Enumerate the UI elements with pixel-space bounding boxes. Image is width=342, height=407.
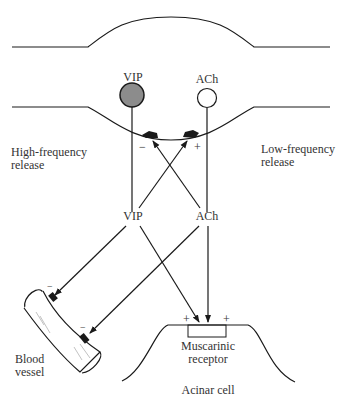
muscarinic-receptor-label-2: receptor	[168, 353, 248, 366]
muscarinic-receptor-box	[188, 325, 226, 337]
ach-neuron-soma	[198, 89, 217, 108]
upper-membrane	[12, 17, 330, 47]
ach-transmitter-label: ACh	[192, 210, 222, 223]
acinar-cell-label: Acinar cell	[168, 384, 248, 397]
vip-neuron-soma	[120, 83, 144, 107]
vip-transmitter-label: VIP	[118, 210, 148, 223]
ach-presynaptic-sign: +	[194, 141, 201, 154]
vip-presynaptic-sign: −	[139, 141, 146, 154]
receptor-sign-right: +	[223, 313, 230, 326]
vessel-sign-1: −	[47, 280, 53, 293]
low-frequency-label-2: release	[261, 156, 294, 169]
blood-vessel-label-2: vessel	[15, 366, 44, 379]
high-frequency-label-2: release	[11, 159, 44, 172]
vip-neuron-label: VIP	[118, 71, 148, 84]
vessel-sign-2: −	[80, 321, 86, 334]
nerve-membrane	[12, 107, 330, 140]
ach-neuron-label: ACh	[192, 73, 222, 86]
receptor-sign-left: +	[183, 313, 190, 326]
